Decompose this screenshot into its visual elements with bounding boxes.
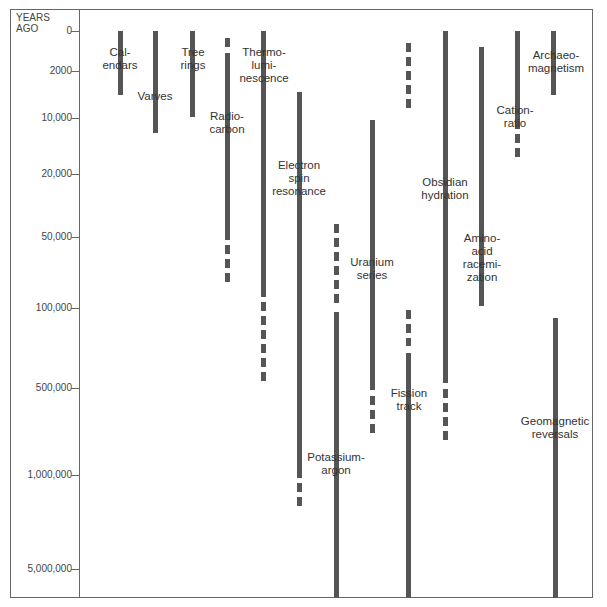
bar-electron-spin-resonance	[297, 92, 302, 478]
label-geomagnetic-reversals: Geomagnetic reversals	[521, 415, 589, 441]
bar-obsidian-hydration-dashed	[443, 389, 448, 441]
label-amino-acid-racemization: Amino- acid racemi- zation	[463, 232, 501, 284]
bar-electron-spin-resonance-dashed	[297, 483, 302, 508]
y-tick-label: 5,000,000	[28, 563, 73, 574]
label-fission-track: Fission track	[391, 387, 427, 413]
label-cation-ratio: Cation- ratio	[496, 104, 533, 130]
label-calendars: Cal- endars	[102, 46, 137, 72]
label-potassium-argon: Potassium- argon	[307, 451, 365, 477]
y-tick	[71, 308, 79, 309]
bar-fission-track-dashed-upper	[406, 43, 411, 110]
bar-uranium-series-dashed	[370, 396, 375, 436]
y-tick-label: 500,000	[36, 382, 72, 393]
label-archaeomagnetism: Archaeo- magnetism	[528, 49, 584, 75]
bar-radiocarbon-dashed-top	[225, 38, 230, 47]
bar-geomagnetic-reversals	[553, 318, 558, 598]
bar-uranium-series	[370, 120, 375, 390]
bar-obsidian-hydration	[443, 31, 448, 383]
bar-fission-track-dashed	[406, 310, 411, 346]
bar-varves	[153, 31, 158, 133]
y-tick-label: 1,000,000	[28, 469, 73, 480]
y-tick-label: 20,000	[41, 168, 72, 179]
label-obsidian-hydration: Obsidian hydration	[421, 176, 468, 202]
y-tick	[71, 475, 79, 476]
y-axis-title-line2: AGO	[16, 23, 50, 34]
dating-methods-chart: YEARS AGO 0 2000 10,000 20,000 50,000 10…	[0, 0, 607, 607]
y-axis-line	[79, 9, 80, 598]
label-radiocarbon: Radio- carbon	[209, 110, 244, 136]
bar-cation-ratio-dashed	[515, 134, 520, 162]
label-varves: Varves	[138, 90, 173, 103]
y-axis-title: YEARS AGO	[16, 12, 50, 34]
y-tick	[71, 174, 79, 175]
bar-radiocarbon	[225, 53, 230, 240]
y-tick	[71, 118, 79, 119]
y-tick	[71, 569, 79, 570]
y-tick-label: 10,000	[41, 112, 72, 123]
y-tick	[71, 31, 79, 32]
bar-thermoluminescence-dashed	[261, 302, 266, 386]
y-axis-title-line1: YEARS	[16, 12, 50, 23]
y-tick	[71, 388, 79, 389]
label-uranium-series: Uranium series	[350, 256, 393, 282]
y-tick-label: 100,000	[36, 302, 72, 313]
bar-radiocarbon-dashed	[225, 245, 230, 283]
label-tree-rings: Tree rings	[181, 46, 206, 72]
bar-tree-rings	[190, 31, 195, 117]
label-thermoluminescence: Thermo- lumi- nescence	[239, 46, 288, 85]
y-tick	[71, 71, 79, 72]
y-tick-label: 50,000	[41, 231, 72, 242]
y-tick	[71, 237, 79, 238]
label-electron-spin-resonance: Electron spin resonance	[272, 159, 326, 198]
bar-potassium-argon-dashed	[334, 224, 339, 306]
y-tick-label: 2000	[50, 65, 72, 76]
